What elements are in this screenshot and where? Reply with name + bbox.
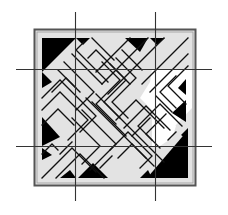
diagram-canvas: [0, 0, 228, 215]
maze-tile-svg: [0, 0, 228, 215]
